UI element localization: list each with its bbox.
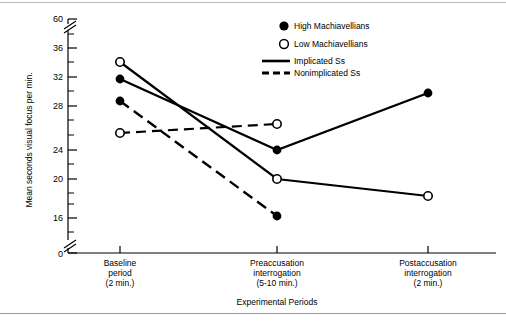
x-axis-title: Experimental Periods [237, 297, 318, 307]
y-tick-label-28: 28 [53, 101, 63, 111]
y-tick-label-60: 60 [53, 14, 63, 24]
x-tick-label-group-1: Preaccusation interrogation (5-10 min.) [250, 258, 304, 288]
x-tick-label-preaccusation-line2: interrogation [253, 268, 301, 278]
y-tick-label-20: 20 [53, 174, 63, 184]
data-point [424, 192, 432, 200]
legend-filled-circle-icon [279, 21, 288, 30]
y-tick-label-32: 32 [53, 72, 63, 82]
legend-label-low-mach: Low Machiavellians [294, 39, 368, 49]
y-tick-label-0: 0 [58, 249, 63, 259]
series-low-mach-nonimplicated [116, 120, 281, 137]
data-point [116, 97, 125, 106]
x-tick-label-group-2: Postaccusation interrogation (2 min.) [399, 258, 457, 288]
y-axis [64, 19, 77, 253]
x-tick-label-postaccusation-line2: interrogation [404, 268, 452, 278]
legend-open-circle-icon [280, 40, 289, 49]
series-high-mach-implicated [116, 75, 433, 155]
y-axis-break-upper [64, 21, 76, 33]
line-chart: 60 36 32 28 24 20 16 0 Mean seconds visu… [0, 0, 506, 330]
data-point [273, 146, 282, 155]
figure-container: 60 36 32 28 24 20 16 0 Mean seconds visu… [0, 0, 506, 330]
y-tick-label-16: 16 [53, 213, 63, 223]
data-point [424, 89, 433, 98]
x-tick-label-preaccusation-line1: Preaccusation [250, 258, 304, 268]
data-point [116, 75, 125, 84]
x-tick-label-postaccusation-line1: Postaccusation [399, 258, 457, 268]
data-point [273, 212, 282, 221]
chart-legend: High Machiavellians Low Machiavellians I… [262, 21, 370, 78]
series-low-mach-implicated [116, 58, 432, 200]
data-point [273, 175, 281, 183]
x-tick-label-group-0: Baseline period (2 min.) [104, 258, 137, 288]
legend-label-implicated: Implicated Ss [294, 56, 345, 66]
x-tick-label-preaccusation-line3: (5-10 min.) [256, 278, 297, 288]
data-point [116, 58, 124, 66]
legend-label-high-mach: High Machiavellians [294, 21, 370, 31]
y-tick-label-36: 36 [53, 43, 63, 53]
x-axis [68, 246, 496, 253]
x-tick-label-postaccusation-line3: (2 min.) [414, 278, 443, 288]
data-point [273, 120, 281, 128]
data-point [116, 129, 124, 137]
x-tick-label-baseline-line3: (2 min.) [106, 278, 135, 288]
y-tick-label-24: 24 [53, 145, 63, 155]
x-tick-label-baseline-line1: Baseline [104, 258, 137, 268]
y-axis-break-lower [64, 240, 76, 252]
legend-label-nonimplicated: Nonimplicated Ss [294, 68, 360, 78]
y-axis-title: Mean seconds visual focus per min. [24, 72, 34, 207]
x-tick-label-baseline-line2: period [108, 268, 132, 278]
